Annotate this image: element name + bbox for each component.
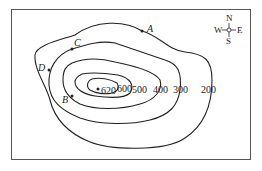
contour-label-600: 600 (117, 84, 132, 94)
compass-rose (222, 23, 236, 37)
point-label-a: A (147, 24, 153, 34)
compass-east: E (237, 26, 243, 35)
point-b-dot (71, 95, 74, 98)
point-label-d: D (38, 63, 45, 73)
point-label-b: B (62, 95, 68, 105)
contour-label-400: 400 (153, 85, 168, 95)
point-label-c: C (74, 38, 81, 48)
summit-dot (97, 88, 100, 91)
contour-label-300: 300 (173, 85, 188, 95)
summit-label: 620 (101, 86, 116, 96)
compass-south: S (226, 37, 231, 46)
contour-label-200: 200 (201, 85, 216, 95)
compass-west: W (214, 26, 223, 35)
compass-north: N (226, 14, 233, 23)
point-a-dot (141, 30, 144, 33)
point-d-dot (48, 69, 51, 72)
contour-label-500: 500 (132, 85, 147, 95)
